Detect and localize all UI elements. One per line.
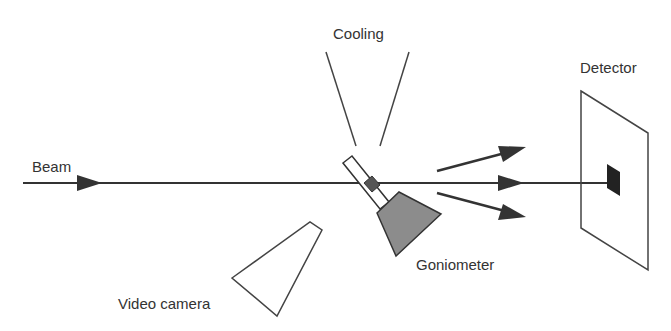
cooling-stream bbox=[326, 52, 409, 146]
transmitted-arrow-icon bbox=[498, 175, 524, 191]
cooling-label: Cooling bbox=[333, 26, 384, 41]
video-camera-label: Video camera bbox=[118, 296, 210, 311]
video-camera-icon bbox=[232, 222, 322, 316]
detector bbox=[581, 91, 648, 270]
detector-label: Detector bbox=[580, 60, 637, 75]
diffracted-arrow-up-icon bbox=[498, 146, 526, 162]
goniometer-label: Goniometer bbox=[416, 257, 494, 272]
beam-line bbox=[23, 175, 613, 191]
diffracted-arrow-down-icon bbox=[498, 204, 526, 220]
diagram-graphics bbox=[0, 0, 671, 331]
beam-label: Beam bbox=[32, 159, 71, 174]
diagram-canvas: Cooling Beam Detector Goniometer Video c… bbox=[0, 0, 671, 331]
detector-spot-icon bbox=[607, 164, 620, 196]
beam-arrow-icon bbox=[77, 175, 102, 191]
